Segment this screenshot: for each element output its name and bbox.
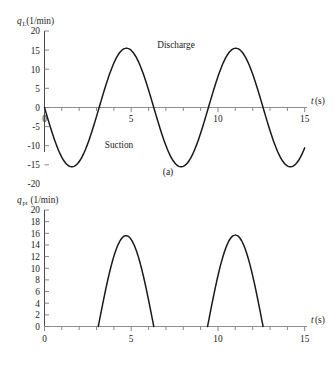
x-tick-label: 10 — [213, 114, 223, 124]
y-tick-label: 5 — [35, 84, 40, 94]
y-tick-label: 0 — [35, 103, 40, 113]
x-axis-unit: (s) — [315, 315, 325, 326]
y-tick-label: 15 — [31, 46, 41, 56]
figure-panel-a: 20 15 10 5 0 -5 -10 -15 -20 0 5 10 15 q … — [0, 0, 336, 188]
x-axis-title-a: t (s) — [311, 96, 325, 107]
chart-b-svg: 20 18 16 14 12 10 8 6 4 2 0 0 5 10 15 q … — [0, 186, 336, 375]
y-tick-label: -5 — [32, 122, 40, 132]
x-tick-label: 15 — [300, 114, 310, 124]
annotation-suction: Suction — [105, 140, 134, 150]
y-tick-label: -10 — [28, 141, 41, 151]
x-tick-label: 5 — [129, 334, 134, 344]
chart-a-svg: 20 15 10 5 0 -5 -10 -15 -20 0 5 10 15 q … — [0, 0, 336, 188]
y-axis-unit: (1/min) — [26, 16, 54, 27]
x-ticks-a — [45, 108, 305, 113]
x-tick-label: 0 — [42, 334, 47, 344]
y-tick-label: 20 — [31, 26, 41, 36]
y-tick-label: 18 — [31, 217, 41, 227]
y-tick-label: 4 — [35, 299, 40, 309]
y-axis-symbol: q — [17, 195, 22, 205]
y-tick-label: 14 — [31, 240, 41, 250]
y-tick-label: 20 — [31, 205, 41, 215]
x-axis-symbol: t — [311, 315, 314, 325]
y-axis-symbol: q — [17, 16, 22, 26]
x-tick-label: 10 — [213, 334, 223, 344]
y-tick-label: 10 — [31, 65, 41, 75]
y-tick-label: 0 — [35, 322, 40, 332]
y-ticks-b — [45, 210, 50, 327]
y-axis-title-a: q L (1/min) — [17, 16, 54, 27]
panel-caption-a: (a) — [0, 167, 336, 177]
y-axis-unit: (1/min) — [31, 195, 59, 206]
y-tick-label: 12 — [31, 252, 41, 262]
x-axis-title-b: t (s) — [311, 315, 325, 326]
x-tick-label: 5 — [129, 114, 134, 124]
y-tick-label: 2 — [35, 310, 40, 320]
x-axis-unit: (s) — [315, 96, 325, 107]
x-tick-label: 15 — [300, 334, 310, 344]
y-tick-label: 8 — [35, 275, 40, 285]
y-axis-title-b: q pt (1/min) — [17, 195, 58, 206]
data-curve-qpt — [98, 235, 263, 326]
x-ticks-b — [45, 327, 305, 332]
figure-panel-b: 20 18 16 14 12 10 8 6 4 2 0 0 5 10 15 q … — [0, 186, 336, 375]
y-tick-label: 6 — [35, 287, 40, 297]
y-tick-label: 10 — [31, 264, 41, 274]
y-axis-subscript: pt — [23, 199, 28, 206]
y-ticks-a — [45, 31, 50, 165]
x-axis-symbol: t — [311, 96, 314, 106]
y-tick-label: 16 — [31, 229, 41, 239]
annotation-discharge: Discharge — [157, 40, 195, 50]
